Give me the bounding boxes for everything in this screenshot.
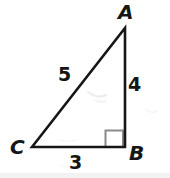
page-edge-band (0, 173, 170, 178)
side-label-base-leg: 3 (69, 153, 82, 172)
side-label-hypotenuse: 5 (58, 65, 71, 84)
vertex-label-c: C (10, 137, 25, 157)
triangle-outline (32, 28, 125, 147)
vertex-label-a: A (118, 2, 133, 22)
triangle-drawing (0, 0, 170, 178)
vertex-label-b: B (129, 143, 144, 163)
triangle-figure: A B C 5 4 3 (0, 0, 170, 178)
side-label-vertical-leg: 4 (128, 75, 141, 94)
right-angle-marker (106, 131, 124, 148)
